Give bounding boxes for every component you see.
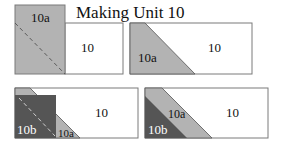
label-10: 10 xyxy=(81,40,94,55)
label-10a: 10a xyxy=(168,107,186,121)
label-10: 10 xyxy=(95,105,108,120)
label-10b: 10b xyxy=(148,122,168,137)
label-10b: 10b xyxy=(17,122,37,137)
unit-10-rectangle xyxy=(65,23,123,74)
label-10a: 10a xyxy=(138,50,157,65)
label-10: 10 xyxy=(226,105,239,120)
panel-4: 10b 10a 10 xyxy=(145,88,268,138)
making-unit-10-diagram: Making Unit 10 10a 10 10a 10 10b 10a 10 … xyxy=(0,0,282,147)
panel-3: 10b 10a 10 xyxy=(15,88,138,139)
panel-2: 10a 10 xyxy=(130,23,252,74)
diagram-title: Making Unit 10 xyxy=(76,3,185,22)
label-10: 10 xyxy=(208,40,221,55)
label-10a: 10a xyxy=(31,10,50,25)
label-10a: 10a xyxy=(58,127,74,139)
